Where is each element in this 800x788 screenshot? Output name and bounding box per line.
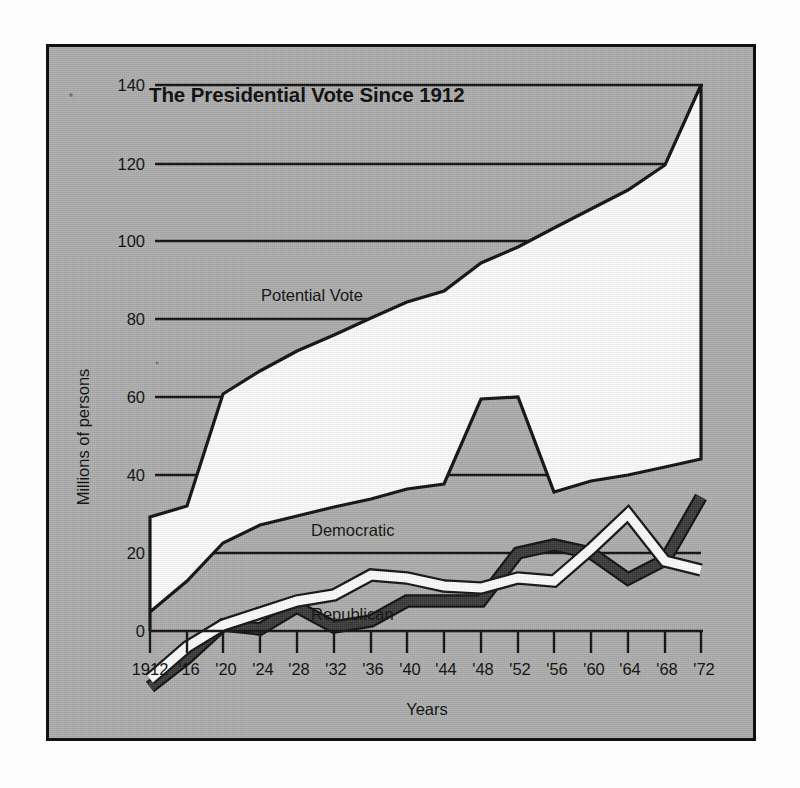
x-tick-label-1952: '52 bbox=[509, 660, 531, 678]
y-tick-label-120: 120 bbox=[117, 155, 145, 173]
potential-vote-area bbox=[150, 85, 701, 631]
x-tick-label-1916: '16 bbox=[178, 660, 200, 678]
y-axis-title: Millions of persons bbox=[74, 369, 92, 506]
x-tick-label-1960: '60 bbox=[583, 660, 605, 678]
x-tick-label-1924: '24 bbox=[252, 660, 274, 678]
x-axis bbox=[150, 631, 703, 653]
print-speck bbox=[156, 362, 159, 365]
y-axis-labels: 140 120 100 80 60 40 20 0 bbox=[117, 76, 145, 640]
presidential-vote-area-chart: 140 120 100 80 60 40 20 0 1912 '16 '20 '… bbox=[49, 47, 759, 744]
x-tick-label-1936: '36 bbox=[362, 660, 384, 678]
y-tick-label-60: 60 bbox=[127, 388, 145, 406]
x-tick-label-1972: '72 bbox=[693, 660, 715, 678]
chart-title: The Presidential Vote Since 1912 bbox=[149, 83, 464, 107]
series-label-republican: Republican bbox=[311, 605, 394, 623]
y-tick-label-100: 100 bbox=[117, 232, 145, 250]
y-tick-label-20: 20 bbox=[127, 544, 145, 562]
x-tick-label-1912: 1912 bbox=[132, 660, 169, 678]
x-tick-label-1956: '56 bbox=[546, 660, 568, 678]
y-tick-label-80: 80 bbox=[127, 310, 145, 328]
x-tick-label-1928: '28 bbox=[288, 660, 310, 678]
y-tick-label-0: 0 bbox=[136, 622, 145, 640]
x-tick-label-1940: '40 bbox=[399, 660, 421, 678]
x-tick-label-1944: '44 bbox=[435, 660, 457, 678]
y-tick-label-40: 40 bbox=[127, 466, 145, 484]
x-tick-label-1968: '68 bbox=[656, 660, 678, 678]
chart-panel: The Presidential Vote Since 1912 bbox=[46, 44, 756, 741]
series-label-democratic: Democratic bbox=[311, 521, 394, 539]
series-label-potential-vote: Potential Vote bbox=[261, 286, 363, 304]
y-tick-label-140: 140 bbox=[117, 76, 145, 94]
x-axis-title: Years bbox=[406, 700, 448, 718]
x-tick-label-1964: '64 bbox=[619, 660, 641, 678]
x-axis-labels: 1912 '16 '20 '24 '28 '32 '36 '40 '44 '48… bbox=[132, 660, 715, 678]
x-tick-label-1932: '32 bbox=[325, 660, 347, 678]
page-canvas: The Presidential Vote Since 1912 bbox=[0, 0, 800, 788]
x-tick-label-1920: '20 bbox=[215, 660, 237, 678]
print-speck bbox=[69, 93, 72, 96]
x-tick-label-1948: '48 bbox=[472, 660, 494, 678]
